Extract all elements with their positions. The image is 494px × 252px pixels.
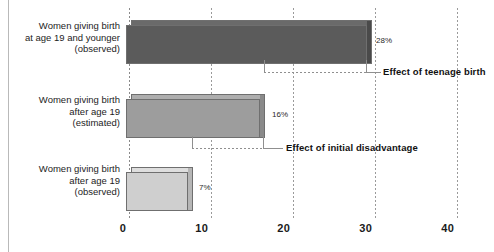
xtick-label-20: 20	[277, 222, 290, 234]
bar-value-label-after19-estimated: 16%	[272, 110, 288, 119]
bar-after19-estimated	[126, 94, 272, 138]
bar-front-face	[126, 25, 367, 64]
bar-teen-observed	[126, 20, 372, 64]
category-label-after19-estimated: Women giving birth after age 19 (estimat…	[39, 94, 120, 129]
bracket-span-teenage	[264, 72, 367, 73]
bar-chart: 0 10 20 30 40 Women giving birth at age …	[0, 0, 494, 252]
bar-side-face	[188, 167, 193, 211]
bar-value-label-teen-observed: 28%	[376, 36, 392, 45]
bar-side-face	[367, 20, 372, 64]
xtick-label-0: 0	[120, 222, 126, 234]
bar-side-face	[260, 94, 265, 138]
category-label-after19-observed: Women giving birth after age 19 (observe…	[39, 163, 120, 198]
xtick-label-40: 40	[441, 222, 454, 234]
bracket-tick-left-disadvantage	[192, 136, 193, 148]
bar-front-face	[126, 172, 188, 211]
bracket-tick-left-teenage	[264, 60, 265, 72]
xtick-label-10: 10	[195, 222, 208, 234]
bracket-leader-teenage	[366, 72, 381, 73]
bar-front-face	[126, 99, 260, 138]
xtick-label-30: 30	[359, 222, 372, 234]
bracket-span-disadvantage	[192, 148, 264, 149]
bracket-tick-right-teenage	[366, 60, 367, 72]
annotation-initial-disadvantage: Effect of initial disadvantage	[286, 142, 418, 153]
bar-after19-observed	[126, 167, 198, 211]
gridline-40	[457, 8, 458, 220]
bracket-leader-disadvantage	[263, 148, 283, 149]
annotation-teenage-birth: Effect of teenage birth	[383, 66, 486, 77]
left-frame-rule	[8, 0, 9, 252]
category-label-teen-observed: Women giving birth at age 19 and younger…	[25, 20, 120, 55]
bar-value-label-after19-observed: 7%	[199, 183, 211, 192]
bracket-tick-right-disadvantage	[263, 136, 264, 148]
